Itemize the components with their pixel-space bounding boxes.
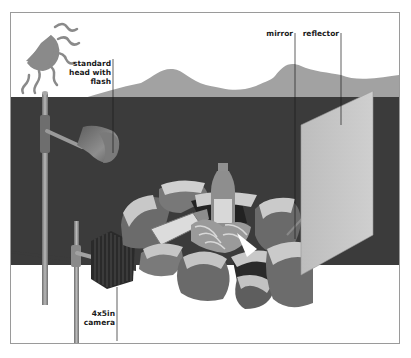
label-line: flash [69, 77, 111, 86]
bottle [218, 163, 228, 171]
light-stand-clamp [40, 115, 50, 153]
label-camera: 4x5in camera [81, 309, 115, 327]
label-mirror: mirror [259, 29, 293, 38]
label-line: camera [81, 318, 115, 327]
label-reflector: reflector [295, 29, 339, 38]
label-text: mirror [266, 29, 293, 38]
label-standard-head: standard head with flash [69, 59, 111, 86]
label-line: standard [69, 59, 111, 68]
hills [81, 64, 399, 99]
label-text: reflector [303, 29, 339, 38]
camera-stand-rod [74, 221, 79, 343]
label-line: head with [69, 68, 111, 77]
diagram-frame: standard head with flash mirror reflecto… [10, 12, 400, 344]
label-line: 4x5in [81, 309, 115, 318]
camera-stand-clamp [71, 245, 81, 267]
